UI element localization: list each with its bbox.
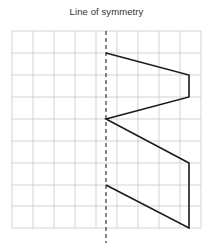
symmetry-diagram xyxy=(0,0,213,249)
shape-outline xyxy=(106,53,189,228)
symmetry-figure-page: Line of symmetry xyxy=(0,0,213,249)
shape-polyline xyxy=(106,53,189,228)
